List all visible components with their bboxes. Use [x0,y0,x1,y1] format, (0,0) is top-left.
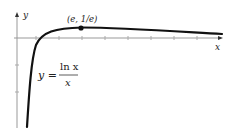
x-axis-label: x [215,42,220,52]
y-axis-arrow-icon [15,12,19,17]
equation-numerator: ln x [60,61,79,72]
equation-denominator: x [65,77,71,88]
x-axis-arrow-icon [218,36,223,40]
chart: y x (e, 1/e) y = ln x x [0,0,238,131]
y-axis-label: y [22,10,29,20]
equation-lhs: y = [37,69,57,82]
max-point-marker [78,25,83,30]
max-point-label: (e, 1/e) [67,14,97,24]
